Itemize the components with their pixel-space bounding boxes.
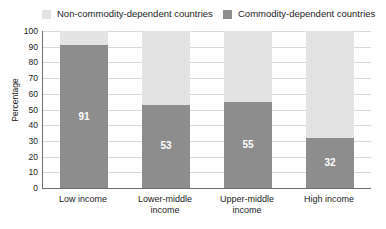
x-axis-tick-labels: Low incomeLower-middleincomeUpper-middle… <box>42 194 370 224</box>
bar-segment-non-commodity-dependent[interactable] <box>60 31 108 45</box>
bar-value-label: 32 <box>306 158 354 168</box>
bar-segment-non-commodity-dependent[interactable] <box>224 31 272 102</box>
bar-group[interactable]: 32 <box>306 31 354 188</box>
bar-segment-commodity-dependent[interactable]: 91 <box>60 45 108 188</box>
x-axis-tick-label: Low income <box>42 194 124 205</box>
x-axis-tick-label: Lower-middleincome <box>124 194 206 216</box>
y-axis-tick-label: 50 <box>8 106 38 114</box>
x-axis-tick-label: Upper-middleincome <box>206 194 288 216</box>
bar-value-label: 55 <box>224 140 272 150</box>
bar-segment-commodity-dependent[interactable]: 32 <box>306 138 354 188</box>
chart-container: Non-commodity-dependent countries Commod… <box>0 0 386 229</box>
bar-segment-commodity-dependent[interactable]: 55 <box>224 102 272 188</box>
y-axis-tick-label: 80 <box>8 58 38 66</box>
bar-segment-non-commodity-dependent[interactable] <box>306 31 354 138</box>
x-axis-tick-label: High income <box>288 194 370 205</box>
bar-stack: 91 <box>60 31 108 188</box>
bar-group[interactable]: 91 <box>60 31 108 188</box>
y-axis-tick-label: 60 <box>8 90 38 98</box>
bar-stack: 32 <box>306 31 354 188</box>
legend-label-non-commodity-dependent: Non-commodity-dependent countries <box>57 9 213 19</box>
bar-value-label: 53 <box>142 141 190 151</box>
chart-legend: Non-commodity-dependent countries Commod… <box>42 7 378 21</box>
legend-item-commodity-dependent: Commodity-dependent countries <box>223 7 375 21</box>
y-axis-tick-label: 40 <box>8 121 38 129</box>
bar-stack: 53 <box>142 31 190 188</box>
legend-swatch-icon-commodity-dependent <box>223 10 232 19</box>
y-axis-tick-label: 20 <box>8 153 38 161</box>
y-axis-tick-label: 0 <box>8 184 38 192</box>
bar-group[interactable]: 53 <box>142 31 190 188</box>
bar-segment-non-commodity-dependent[interactable] <box>142 31 190 105</box>
legend-swatch-icon-non-commodity-dependent <box>42 10 51 19</box>
legend-item-non-commodity-dependent: Non-commodity-dependent countries <box>42 7 213 21</box>
y-axis-tick-label: 90 <box>8 43 38 51</box>
bar-stack: 55 <box>224 31 272 188</box>
y-axis-tick-label: 30 <box>8 137 38 145</box>
bar-value-label: 91 <box>60 112 108 122</box>
y-axis-tick-labels: 1009080706050403020100 <box>8 31 38 188</box>
bar-group[interactable]: 55 <box>224 31 272 188</box>
bar-segment-commodity-dependent[interactable]: 53 <box>142 105 190 188</box>
y-axis-tick-label: 100 <box>8 27 38 35</box>
y-axis-tick-label: 10 <box>8 168 38 176</box>
legend-label-commodity-dependent: Commodity-dependent countries <box>238 9 375 19</box>
bar-series-group: 91535532 <box>43 31 371 188</box>
y-axis-tick-label: 70 <box>8 74 38 82</box>
plot-area: 91535532 <box>42 31 371 189</box>
